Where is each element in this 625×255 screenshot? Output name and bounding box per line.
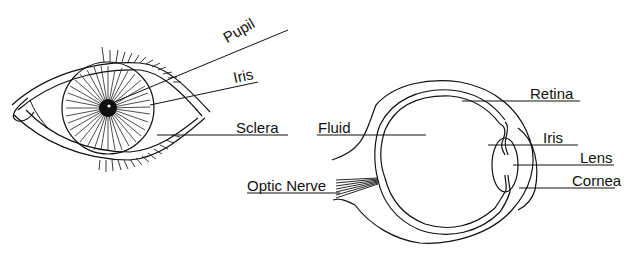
diagram-drawing (0, 0, 625, 255)
front-eye-figure (12, 30, 288, 172)
cross-section-eye-figure (247, 81, 615, 244)
pupil-leader-line (112, 30, 288, 103)
label-cornea: Cornea (572, 173, 621, 188)
label-fluid: Fluid (318, 120, 351, 135)
label-retina: Retina (530, 86, 573, 101)
label-side-iris: Iris (543, 130, 563, 145)
front-iris-leader-line (150, 82, 258, 105)
eye-anatomy-diagram: Pupil Iris Sclera Fluid Optic Nerve Reti… (0, 0, 625, 255)
label-front-iris: Iris (232, 66, 255, 85)
optic-nerve-fibers (336, 178, 378, 198)
label-lens: Lens (580, 150, 613, 165)
label-sclera: Sclera (236, 120, 279, 135)
label-optic-nerve: Optic Nerve (247, 178, 326, 193)
